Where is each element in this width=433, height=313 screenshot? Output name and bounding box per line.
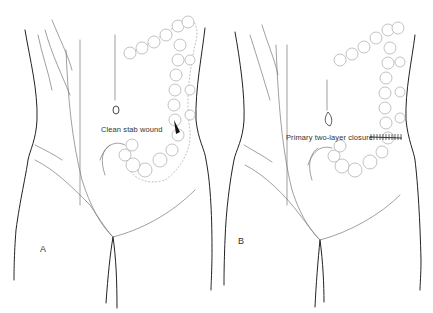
panel-label-b: B [238,236,244,246]
panel-label-a: A [40,244,46,254]
panel-b-drawing [0,0,433,313]
callout-primary-two-layer-closure: Primary two-layer closure [286,133,373,142]
figure-canvas: Clean stab wound A Primary two-layer clo… [0,0,433,313]
suture-line [370,134,402,140]
callout-clean-stab-wound: Clean stab wound [101,125,163,134]
colon-b [308,22,405,180]
